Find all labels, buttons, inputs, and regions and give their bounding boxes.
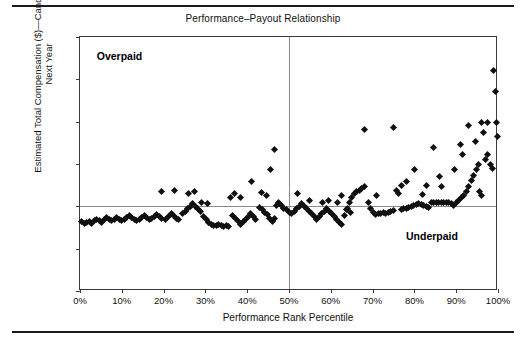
- y-tick-mark: [76, 79, 80, 80]
- x-tick-label: 80%: [394, 295, 434, 306]
- scatter-point: [325, 197, 332, 204]
- x-tick-label: 90%: [436, 295, 476, 306]
- y-tick-mark: [76, 249, 80, 250]
- scatter-point: [493, 119, 500, 126]
- x-tick-mark: [247, 289, 248, 293]
- scatter-point: [361, 126, 368, 133]
- scatter-point: [419, 191, 426, 198]
- scatter-point: [459, 151, 466, 158]
- scatter-point: [390, 124, 397, 131]
- scatter-point: [480, 129, 487, 136]
- scatter-point: [158, 188, 165, 195]
- scatter-point: [338, 221, 345, 228]
- y-tick-mark: [76, 122, 80, 123]
- scatter-point: [490, 67, 497, 74]
- x-tick-mark: [373, 289, 374, 293]
- scatter-point: [171, 187, 178, 194]
- x-tick-label: 70%: [353, 295, 393, 306]
- scatter-point: [373, 192, 380, 199]
- x-tick-label: 40%: [227, 295, 267, 306]
- scatter-point: [436, 173, 443, 180]
- top-rule: [12, 5, 514, 7]
- x-tick-label: 10%: [102, 295, 142, 306]
- x-axis-label: Performance Rank Percentile: [79, 312, 497, 323]
- x-tick-mark: [456, 289, 457, 293]
- x-tick-label: 30%: [185, 295, 225, 306]
- x-tick-label: 50%: [269, 295, 309, 306]
- scatter-point: [334, 199, 341, 206]
- scatter-point: [191, 188, 198, 195]
- scatter-point: [267, 166, 274, 173]
- x-tick-mark: [122, 289, 123, 293]
- scatter-point: [484, 119, 491, 126]
- scatter-point: [451, 166, 458, 173]
- scatter-point: [306, 197, 313, 204]
- chart-title: Performance–Payout Relationship: [0, 13, 526, 24]
- x-tick-mark: [498, 289, 499, 293]
- annotation-underpaid: Underpaid: [406, 230, 458, 242]
- scatter-point: [271, 215, 278, 222]
- y-tick-mark: [76, 37, 80, 38]
- scatter-point: [252, 215, 259, 222]
- scatter-point: [489, 165, 496, 172]
- scatter-point: [338, 192, 345, 199]
- scatter-point: [271, 146, 278, 153]
- scatter-point: [411, 166, 418, 173]
- x-tick-label: 20%: [144, 295, 184, 306]
- x-tick-mark: [289, 289, 290, 293]
- x-tick-mark: [414, 289, 415, 293]
- x-tick-mark: [331, 289, 332, 293]
- scatter-point: [457, 141, 464, 148]
- annotation-overpaid: Overpaid: [97, 50, 143, 62]
- x-tick-mark: [164, 289, 165, 293]
- y-tick-mark: [76, 164, 80, 165]
- y-axis-label-line2: Next Year: [43, 0, 54, 174]
- scatter-point: [430, 144, 437, 151]
- x-tick-label: 0%: [60, 295, 100, 306]
- x-tick-label: 60%: [311, 295, 351, 306]
- scatter-point: [237, 194, 244, 201]
- y-axis-label: Estimated Total Compensation ($)—Candida…: [32, 0, 60, 174]
- scatter-point: [494, 133, 501, 140]
- y-axis-label-line1: Estimated Total Compensation ($)—Candida…: [32, 0, 43, 173]
- scatter-point: [465, 122, 472, 129]
- x-tick-mark: [205, 289, 206, 293]
- bottom-rule: [12, 331, 514, 333]
- scatter-point: [294, 190, 301, 197]
- x-tick-mark: [80, 289, 81, 293]
- reference-line-vertical: [289, 37, 290, 289]
- x-tick-label: 100%: [478, 295, 518, 306]
- scatter-point: [248, 178, 255, 185]
- scatter-point: [423, 182, 430, 189]
- scatter-point: [492, 88, 499, 95]
- scatter-point: [438, 183, 445, 190]
- figure-container: Performance–Payout Relationship Estimate…: [0, 0, 526, 344]
- scatter-point: [478, 192, 485, 199]
- plot-area: 025,00050,00075,000100,000125,000150,000…: [79, 36, 497, 290]
- scatter-point: [395, 190, 402, 197]
- scatter-point: [471, 138, 478, 145]
